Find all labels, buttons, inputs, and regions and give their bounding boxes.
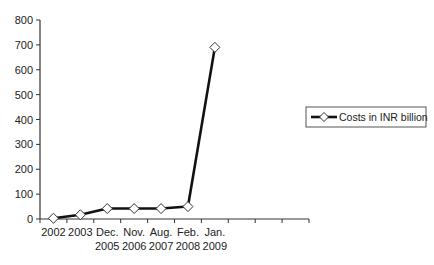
y-tick-label: 200 <box>15 163 33 175</box>
x-tick-label: 2003 <box>68 226 92 238</box>
x-tick-label: Jan. <box>204 226 225 238</box>
x-tick-label: 2008 <box>176 240 200 252</box>
data-point-diamond-marker <box>48 213 58 223</box>
legend: Costs in INR billion <box>306 107 428 127</box>
y-tick-label: 700 <box>15 39 33 51</box>
x-tick-label: Feb. <box>177 226 199 238</box>
x-tick-label: 2002 <box>41 226 65 238</box>
y-tick-label: 300 <box>15 138 33 150</box>
data-point-diamond-marker <box>183 202 193 212</box>
x-tick-label: Nov. <box>123 226 145 238</box>
y-tick-label: 400 <box>15 114 33 126</box>
data-point-diamond-marker <box>102 204 112 214</box>
y-tick-label: 600 <box>15 64 33 76</box>
x-tick-label: Aug. <box>150 226 173 238</box>
x-tick-label: 2009 <box>203 240 227 252</box>
line-chart: 0100200300400500600700800 20022003Dec.20… <box>0 0 434 265</box>
series-line <box>53 47 214 218</box>
data-point-diamond-marker <box>156 204 166 214</box>
data-point-diamond-marker <box>210 42 220 52</box>
x-tick-label: 2007 <box>149 240 173 252</box>
x-axis: 20022003Dec.2005Nov.2006Aug.2007Feb.2008… <box>40 219 309 252</box>
y-tick-label: 500 <box>15 89 33 101</box>
y-tick-label: 0 <box>27 213 33 225</box>
series-costs <box>48 42 219 223</box>
y-tick-label: 100 <box>15 188 33 200</box>
x-tick-label: Dec. <box>96 226 119 238</box>
y-tick-label: 800 <box>15 14 33 26</box>
legend-label: Costs in INR billion <box>339 111 428 123</box>
y-axis: 0100200300400500600700800 <box>15 14 40 225</box>
data-point-diamond-marker <box>75 210 85 220</box>
data-point-diamond-marker <box>129 204 139 214</box>
x-tick-label: 2005 <box>95 240 119 252</box>
x-tick-label: 2006 <box>122 240 146 252</box>
